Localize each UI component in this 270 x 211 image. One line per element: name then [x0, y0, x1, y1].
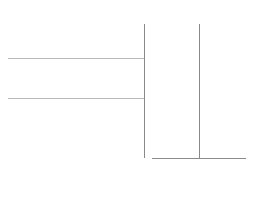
bar-row	[0, 42, 270, 60]
chart-panel	[0, 0, 270, 211]
group-separator	[8, 58, 144, 59]
bar-row	[0, 77, 270, 95]
bar-row	[0, 94, 270, 112]
bar-row	[0, 130, 270, 148]
bar-row	[0, 24, 270, 42]
bar-row	[0, 112, 270, 130]
bar-row	[0, 59, 270, 77]
plot-area	[0, 24, 270, 158]
bottom-tick-strip	[0, 158, 270, 163]
group-separator	[8, 98, 144, 99]
